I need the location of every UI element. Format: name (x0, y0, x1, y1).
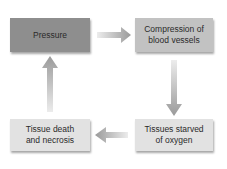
arrow-down-icon (166, 60, 182, 116)
node-label: Compression of blood vessels (135, 24, 213, 46)
arrow-right-icon (97, 27, 131, 43)
node-label: Pressure (33, 30, 67, 41)
arrow-up-icon (42, 56, 58, 112)
node-tissue-necrosis: Tissue death and necrosis (10, 119, 90, 151)
node-compression: Compression of blood vessels (135, 18, 213, 52)
arrow-left-icon (95, 127, 128, 143)
node-pressure: Pressure (10, 18, 90, 52)
node-label: Tissues starved of oxygen (135, 124, 213, 146)
node-tissues-starved: Tissues starved of oxygen (135, 119, 213, 151)
node-label: Tissue death and necrosis (10, 124, 90, 146)
